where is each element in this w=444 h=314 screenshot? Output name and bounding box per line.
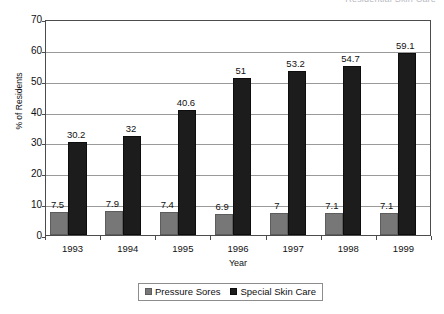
x-axis-tick-label: 1994 bbox=[100, 243, 155, 254]
legend-label: Pressure Sores bbox=[155, 286, 220, 297]
bar-value-label: 54.7 bbox=[335, 54, 367, 64]
bar-groups: 7.530.27.9327.440.66.951753.27.154.77.15… bbox=[46, 21, 430, 235]
bar-special-skin-care[interactable] bbox=[178, 110, 196, 235]
bar-value-label: 53.2 bbox=[280, 59, 312, 69]
legend-swatch-icon bbox=[145, 288, 152, 295]
bar-value-label: 32 bbox=[115, 124, 147, 134]
bar-pressure-sores[interactable] bbox=[270, 213, 288, 235]
bar-group: 7.530.2 bbox=[46, 21, 101, 235]
bar-group: 7.932 bbox=[101, 21, 156, 235]
bar-special-skin-care[interactable] bbox=[288, 71, 306, 235]
bar-pressure-sores[interactable] bbox=[215, 214, 233, 235]
x-axis-tick-label: 1998 bbox=[321, 243, 376, 254]
x-axis-tick-label: 1997 bbox=[266, 243, 321, 254]
x-axis-tick-mark bbox=[155, 236, 156, 240]
legend-label: Special Skin Care bbox=[240, 286, 316, 297]
bar-special-skin-care[interactable] bbox=[123, 136, 141, 235]
bar-pressure-sores[interactable] bbox=[160, 212, 178, 235]
x-axis-tick-mark bbox=[321, 236, 322, 240]
plot-area: 7.530.27.9327.440.66.951753.27.154.77.15… bbox=[45, 20, 431, 236]
x-axis-tick-mark bbox=[431, 236, 432, 240]
y-axis-tick-label: 50 bbox=[20, 77, 42, 87]
chart-legend: Pressure SoresSpecial Skin Care bbox=[138, 283, 323, 301]
y-axis-tick-label: 0 bbox=[20, 231, 42, 241]
x-axis-tick-label: 1993 bbox=[45, 243, 100, 254]
bar-value-label: 30.2 bbox=[60, 130, 92, 140]
x-axis-tick-mark bbox=[210, 236, 211, 240]
x-axis-tick-mark bbox=[45, 236, 46, 240]
bar-group: 6.951 bbox=[211, 21, 266, 235]
bar-pressure-sores[interactable] bbox=[105, 211, 123, 235]
bar-group: 7.159.1 bbox=[375, 21, 430, 235]
bar-special-skin-care[interactable] bbox=[343, 66, 361, 235]
bar-special-skin-care[interactable] bbox=[398, 53, 416, 235]
y-axis-tick-label: 20 bbox=[20, 169, 42, 179]
bar-pressure-sores[interactable] bbox=[50, 212, 68, 235]
x-axis-tick-label: 1996 bbox=[210, 243, 265, 254]
y-axis-tick-label: 30 bbox=[20, 138, 42, 148]
bar-pressure-sores[interactable] bbox=[380, 213, 398, 235]
x-axis-tick-mark bbox=[376, 236, 377, 240]
legend-swatch-icon bbox=[230, 288, 237, 295]
legend-item[interactable]: Pressure Sores bbox=[145, 286, 220, 297]
y-axis-tick-labels: 706050403020100 bbox=[16, 0, 42, 314]
x-axis-title: Year bbox=[45, 258, 431, 268]
bar-group: 7.440.6 bbox=[156, 21, 211, 235]
bar-value-label: 59.1 bbox=[389, 41, 421, 51]
bar-value-label: 40.6 bbox=[170, 98, 202, 108]
x-axis-tick-mark bbox=[266, 236, 267, 240]
x-axis-tick-label: 1995 bbox=[155, 243, 210, 254]
y-axis-tick-label: 60 bbox=[20, 46, 42, 56]
bar-group: 7.154.7 bbox=[320, 21, 375, 235]
bar-group: 753.2 bbox=[265, 21, 320, 235]
bar-pressure-sores[interactable] bbox=[325, 213, 343, 235]
y-axis-tick-label: 40 bbox=[20, 108, 42, 118]
bar-special-skin-care[interactable] bbox=[68, 142, 86, 235]
x-axis-tick-mark bbox=[100, 236, 101, 240]
bar-chart: % of Residents 706050403020100 7.530.27.… bbox=[0, 0, 444, 314]
y-axis-tick-label: 70 bbox=[20, 15, 42, 25]
bar-value-label: 51 bbox=[225, 66, 257, 76]
legend-item[interactable]: Special Skin Care bbox=[230, 286, 316, 297]
y-axis-tick-label: 10 bbox=[20, 200, 42, 210]
x-axis-tick-label: 1999 bbox=[376, 243, 431, 254]
bar-special-skin-care[interactable] bbox=[233, 78, 251, 235]
